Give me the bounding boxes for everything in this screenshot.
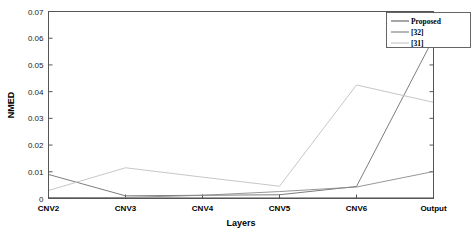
x-tick-label-output: Output	[420, 204, 447, 213]
chart-legend[interactable]: Proposed[32][31]	[387, 13, 471, 48]
x-tick-label-cnv3: CNV3	[115, 204, 137, 213]
x-axis-label: Layers	[226, 218, 255, 228]
y-axis-label: NMED	[6, 91, 16, 118]
y-tick-label: 0.05	[28, 61, 44, 70]
y-tick-label: 0.04	[28, 88, 44, 97]
x-tick-label-cnv4: CNV4	[192, 204, 214, 213]
legend-label-proposed: Proposed	[411, 17, 442, 26]
y-tick-label: 0.03	[28, 114, 44, 123]
y-tick-label: 0.01	[28, 168, 44, 177]
x-tick-label-cnv5: CNV5	[269, 204, 291, 213]
y-tick-label: 0.02	[28, 141, 44, 150]
y-tick-label: 0	[39, 195, 44, 204]
legend-label-31: [31]	[411, 39, 424, 48]
y-tick-label: 0.07	[28, 8, 44, 17]
legend-label-32: [32]	[411, 28, 424, 37]
x-tick-label-cnv6: CNV6	[346, 204, 368, 213]
nmed-layers-line-chart: NMED 00.010.020.030.040.050.060.07 CNV2C…	[0, 0, 472, 240]
y-tick-label: 0.06	[28, 34, 44, 43]
x-tick-label-cnv2: CNV2	[38, 204, 60, 213]
